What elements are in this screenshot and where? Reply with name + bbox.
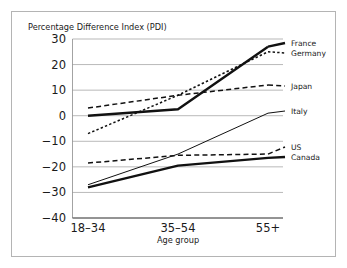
y-tick-label: 10: [51, 83, 66, 97]
series-leader-france: [268, 43, 285, 47]
series-leader-italy: [268, 111, 285, 113]
series-label-group: FranceGermanyJapanItalyUSCanada: [290, 39, 326, 162]
series-label-us: US: [291, 143, 302, 152]
series-line-france: [88, 47, 268, 116]
y-tick-label: −30: [42, 185, 66, 199]
series-label-italy: Italy: [291, 107, 308, 116]
series-line-canada: [88, 158, 268, 187]
series-line-japan: [88, 85, 268, 108]
series-label-france: France: [291, 39, 317, 48]
line-chart: Percentage Difference Index (PDI) 302010…: [0, 0, 347, 268]
x-tick-label: 55+: [256, 221, 280, 235]
series-leader-us: [268, 147, 285, 154]
x-tick-label: 18–34: [70, 221, 105, 235]
y-tick-label: −20: [42, 160, 66, 174]
x-axis-title: Age group: [157, 235, 199, 245]
y-tick-label: −40: [42, 211, 66, 225]
series-leader-canada: [268, 157, 285, 158]
series-leader-japan: [268, 85, 285, 86]
y-gridlines: [73, 39, 284, 218]
y-tick-label: 30: [51, 32, 66, 46]
x-tick-label: 35–54: [160, 221, 195, 235]
series-label-japan: Japan: [290, 82, 312, 91]
series-line-italy: [88, 113, 268, 185]
series-leader-germany: [268, 52, 285, 53]
x-tick-labels: 18–3435–5455+: [70, 221, 280, 235]
figure-container: Percentage Difference Index (PDI) 302010…: [0, 0, 347, 268]
y-tick-label: −10: [42, 134, 66, 148]
y-tick-label: 0: [59, 109, 66, 123]
y-tick-label: 20: [51, 58, 66, 72]
y-axis-title: Percentage Difference Index (PDI): [28, 22, 167, 32]
y-tick-labels: 3020100−10−20−30−40: [42, 32, 66, 225]
series-line-us: [88, 154, 268, 163]
series-label-germany: Germany: [291, 49, 326, 58]
series-label-canada: Canada: [291, 153, 320, 162]
